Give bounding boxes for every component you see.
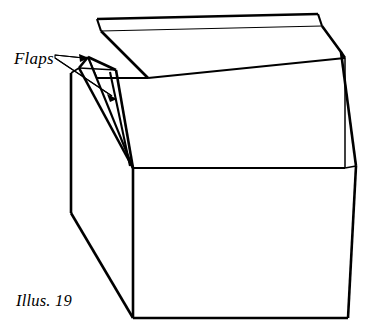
illustration-figure: Flaps Illus. 19 — [0, 0, 380, 335]
carton-line-drawing — [0, 0, 380, 335]
illustration-caption: Illus. 19 — [16, 293, 72, 310]
front-panel-fill — [133, 168, 348, 318]
flaps-annotation-label: Flaps — [14, 50, 54, 67]
left-panel-top-short-edge — [71, 68, 79, 73]
